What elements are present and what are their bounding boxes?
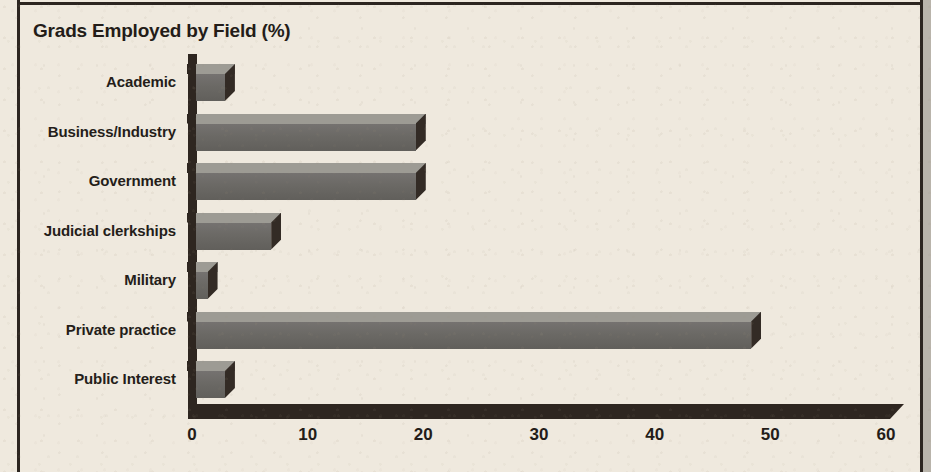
x-tick-label-0: 0 <box>162 425 222 445</box>
bar-top-face-inner <box>196 114 426 124</box>
chart-title: Grads Employed by Field (%) <box>33 20 290 42</box>
bar-business-industry <box>196 114 426 151</box>
x-axis-arrow-tip <box>890 404 904 419</box>
bar-top-face-inner <box>196 312 761 322</box>
x-tick-label-10: 10 <box>278 425 338 445</box>
x-tick-label-30: 30 <box>509 425 569 445</box>
page-gutter-right <box>923 0 931 472</box>
bar-front-face <box>196 272 208 299</box>
category-label-private-practice: Private practice <box>14 321 176 338</box>
bar-private-practice <box>196 312 761 349</box>
category-label-government: Government <box>14 172 176 189</box>
bar-government <box>196 163 426 200</box>
category-label-business-industry: Business/Industry <box>14 123 176 140</box>
page-rule-left <box>17 0 20 472</box>
x-tick-label-40: 40 <box>625 425 685 445</box>
chart-page: Grads Employed by Field (%) AcademicBusi… <box>0 0 931 472</box>
x-axis <box>188 404 890 419</box>
category-label-academic: Academic <box>14 73 176 90</box>
page-rule-top <box>17 2 923 5</box>
bar-front-face <box>196 74 225 101</box>
bar-front-face <box>196 322 751 349</box>
bar-military <box>196 262 218 299</box>
x-tick-label-20: 20 <box>393 425 453 445</box>
category-label-judicial-clerkships: Judicial clerkships <box>14 222 176 239</box>
bar-front-face <box>196 223 271 250</box>
bar-top-face <box>196 213 281 223</box>
bar-front-face <box>196 124 416 151</box>
bar-front-face <box>196 173 416 200</box>
bar-top-face-inner <box>196 213 281 223</box>
bar-academic <box>196 64 235 101</box>
bar-front-face <box>196 371 225 398</box>
x-tick-label-50: 50 <box>740 425 800 445</box>
bar-public-interest <box>196 361 235 398</box>
bar-top-face <box>196 312 761 322</box>
bar-chart-plot: AcademicBusiness/IndustryGovernmentJudic… <box>0 0 931 472</box>
bar-judicial-clerkships <box>196 213 281 250</box>
bar-top-face <box>196 163 426 173</box>
x-tick-label-60: 60 <box>856 425 916 445</box>
bar-top-face-inner <box>196 163 426 173</box>
category-label-public-interest: Public Interest <box>14 370 176 387</box>
bar-top-face <box>196 114 426 124</box>
category-label-military: Military <box>14 271 176 288</box>
